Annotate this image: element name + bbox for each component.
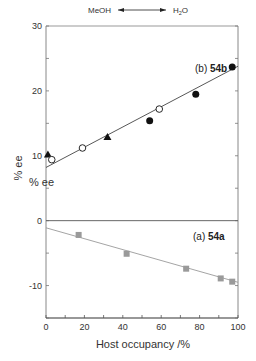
open-circle-marker (156, 106, 163, 113)
x-axis-title: Host occupancy /% (96, 338, 190, 350)
fit-lines (46, 66, 238, 282)
square-marker (229, 279, 235, 285)
solvent-right-label: H2O (173, 6, 188, 16)
filled-circle-marker (146, 117, 153, 124)
x-tick-label: 20 (79, 322, 89, 332)
x-tick-label: 80 (195, 322, 205, 332)
solvent-annotation: MeOH H2O (88, 6, 188, 16)
y-tick-label: -10 (29, 281, 42, 291)
filled-circle-marker (192, 91, 199, 98)
y-tick-label: 10 (32, 151, 42, 161)
scatter-chart: MeOH H2O -100102030020406080100 (b) 54b … (0, 0, 256, 361)
x-tick-label: 0 (43, 322, 48, 332)
y-tick-label: 0 (37, 216, 42, 226)
chart-container: MeOH H2O -100102030020406080100 (b) 54b … (0, 0, 256, 361)
square-marker (124, 251, 130, 257)
data-points (44, 63, 236, 284)
square-marker (76, 232, 82, 238)
arrow-left-icon (118, 8, 124, 12)
panel-label-a: (a) 54a (193, 231, 225, 242)
y-axis-title-duplicate: % ee (29, 176, 54, 188)
y-tick-label: 20 (32, 86, 42, 96)
y-axis-title: % ee (12, 155, 24, 180)
square-marker (218, 275, 224, 281)
x-tick-label: 40 (118, 322, 128, 332)
fit-line (46, 66, 238, 167)
y-tick-label: 30 (32, 21, 42, 31)
filled-circle-marker (229, 63, 236, 70)
x-tick-label: 60 (156, 322, 166, 332)
open-circle-marker (79, 145, 86, 152)
open-circle-marker (48, 156, 55, 163)
solvent-left-label: MeOH (88, 6, 111, 15)
arrow-right-icon (160, 8, 166, 12)
square-marker (183, 266, 189, 272)
x-tick-label: 100 (230, 322, 245, 332)
panel-label-b: (b) 54b (195, 63, 227, 74)
